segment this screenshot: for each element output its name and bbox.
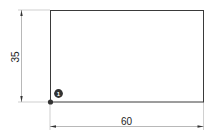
point-badge: 1 xyxy=(54,89,63,98)
origin-point[interactable] xyxy=(48,99,53,104)
drawing-canvas: 35 60 1 xyxy=(0,0,213,134)
arrowhead-down-icon xyxy=(20,96,22,102)
vertical-dimension: 35 xyxy=(10,10,23,102)
arrowhead-left-icon xyxy=(50,125,56,127)
vertical-dimension-label: 35 xyxy=(10,51,21,63)
arrowhead-right-icon xyxy=(198,125,204,127)
horizontal-dimension: 60 xyxy=(50,116,204,128)
horizontal-dimension-label: 60 xyxy=(121,116,133,127)
rectangle-shape[interactable] xyxy=(51,11,204,103)
arrowhead-up-icon xyxy=(20,10,22,16)
